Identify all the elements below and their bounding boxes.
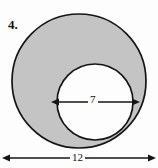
outer-diameter-label: 12: [70, 152, 85, 163]
problem-number-label: 4.: [8, 18, 18, 31]
annulus-drawing: [0, 0, 158, 168]
inner-diameter-label: 7: [88, 94, 98, 105]
annulus-figure: 4. 7 12: [0, 0, 158, 168]
